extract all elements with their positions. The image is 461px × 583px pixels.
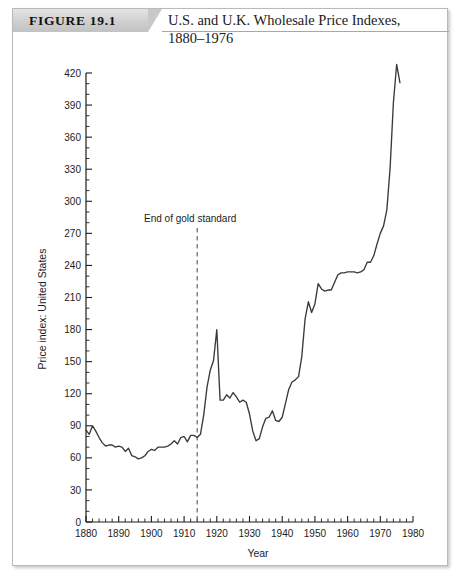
x-tick-label: 1890 (108, 528, 131, 539)
x-tick-label: 1970 (369, 528, 392, 539)
data-series-group (86, 64, 400, 458)
chart-plot-area: 0306090120150180210240270300330360390420… (13, 9, 449, 567)
chart-annotations: End of gold standard (144, 213, 236, 522)
y-tick-label: 90 (70, 420, 82, 431)
x-tick-label: 1950 (304, 528, 327, 539)
y-axis: 0306090120150180210240270300330360390420 (64, 68, 92, 528)
x-axis-title: Year (247, 547, 269, 559)
y-tick-label: 120 (64, 388, 81, 399)
y-tick-label: 30 (70, 485, 82, 496)
y-tick-label: 60 (70, 452, 82, 463)
y-tick-label: 300 (64, 196, 81, 207)
y-tick-label: 240 (64, 260, 81, 271)
y-tick-label: 420 (64, 68, 81, 79)
figure-tag-label: FIGURE 19.1 (29, 13, 116, 29)
y-tick-label: 180 (64, 324, 81, 335)
y-tick-label: 150 (64, 356, 81, 367)
y-tick-label: 0 (75, 517, 81, 528)
line-chart: 0306090120150180210240270300330360390420… (13, 9, 449, 567)
y-tick-label: 330 (64, 164, 81, 175)
y-tick-label: 360 (64, 132, 81, 143)
data-series-line (86, 64, 400, 458)
x-tick-label: 1930 (238, 528, 261, 539)
x-tick-label: 1900 (140, 528, 163, 539)
y-tick-label: 210 (64, 292, 81, 303)
figure-frame: FIGURE 19.1 U.S. and U.K. Wholesale Pric… (12, 8, 448, 566)
x-tick-label: 1980 (402, 528, 425, 539)
x-tick-label: 1920 (206, 528, 229, 539)
x-tick-label: 1960 (336, 528, 359, 539)
y-axis-title: Price index: United States (36, 249, 48, 370)
x-tick-label: 1910 (173, 528, 196, 539)
y-tick-label: 270 (64, 228, 81, 239)
x-tick-label: 1940 (271, 528, 294, 539)
annotation-label: End of gold standard (144, 213, 236, 224)
y-tick-label: 390 (64, 100, 81, 111)
x-tick-label: 1880 (75, 528, 98, 539)
x-axis: 1880189019001910192019301940195019601970… (75, 516, 425, 539)
